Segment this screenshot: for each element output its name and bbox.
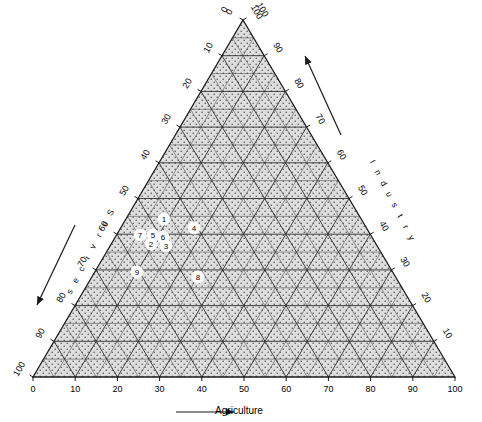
bottom-tick-label: 80 <box>366 384 376 394</box>
left-tick-label: 40 <box>138 148 152 162</box>
left-tick-label: 30 <box>159 112 173 126</box>
bottom-tick-label: 70 <box>323 384 333 394</box>
data-point-label: 9 <box>135 268 140 277</box>
left-tick-label: 90 <box>33 326 47 340</box>
bottom-tick-label: 50 <box>239 384 249 394</box>
data-point-marker: 8 <box>192 271 204 283</box>
left-axis-title-letter: v <box>87 241 98 250</box>
right-tick-label: 30 <box>398 255 412 269</box>
left-axis-title-letter: S <box>105 207 117 217</box>
right-axis-title-letter: u <box>384 190 395 199</box>
right-tick-label: 60 <box>335 148 349 162</box>
right-tick-label: 20 <box>420 291 434 305</box>
left-axis-title-letter: e <box>70 275 81 284</box>
left-tick-label: 10 <box>201 41 215 55</box>
left-tick-label: 20 <box>180 76 194 90</box>
data-point-marker: 1 <box>158 213 170 225</box>
data-point-label: 8 <box>196 273 201 282</box>
right-axis-title-letter: n <box>373 168 384 177</box>
apex-labels: 0100 <box>219 0 271 18</box>
bottom-tick-label: 100 <box>447 384 462 394</box>
right-tick-label: 40 <box>377 219 391 233</box>
bottom-axis-title: Agriculture <box>215 405 263 416</box>
data-point-label: 1 <box>162 215 167 224</box>
bottom-tick-label: 20 <box>112 384 122 394</box>
right-axis-title-letter: r <box>401 223 411 231</box>
right-tick-label: 10 <box>441 326 455 340</box>
data-point-label: 5 <box>151 231 156 240</box>
right-tick-label: 80 <box>292 76 306 90</box>
bottom-tick-label: 60 <box>281 384 291 394</box>
right-axis-title-letter: d <box>378 179 389 188</box>
data-point-label: 6 <box>161 233 166 242</box>
bottom-tick-label: 40 <box>197 384 207 394</box>
right-axis-title-letter: s <box>389 201 400 210</box>
bottom-tick-label: 90 <box>408 384 418 394</box>
bottom-tick-label: 30 <box>155 384 165 394</box>
bottom-tick-label: 0 <box>30 384 35 394</box>
right-axis-title-letter: t <box>396 212 406 220</box>
data-point-marker: 6 <box>157 231 169 243</box>
right-tick-label: 90 <box>271 41 285 55</box>
right-axis-title-letter: I <box>368 158 378 165</box>
right-tick-label: 70 <box>314 112 328 126</box>
data-point-label: 7 <box>138 231 143 240</box>
right-axis-title-letter: y <box>406 233 417 242</box>
left-tick-label: 50 <box>117 184 131 198</box>
data-point-label: 4 <box>192 224 197 233</box>
left-tick-label: 100 <box>11 360 27 378</box>
ternary-plot-svg: 0102030405060708090100100908070605040302… <box>0 0 482 422</box>
data-point-marker: 7 <box>134 229 146 241</box>
data-point-marker: 9 <box>131 266 143 278</box>
ternary-diagram-canvas: 0102030405060708090100100908070605040302… <box>0 0 482 422</box>
bottom-tick-label: 10 <box>70 384 80 394</box>
right-tick-label: 50 <box>356 184 370 198</box>
data-point-marker: 4 <box>188 222 200 234</box>
